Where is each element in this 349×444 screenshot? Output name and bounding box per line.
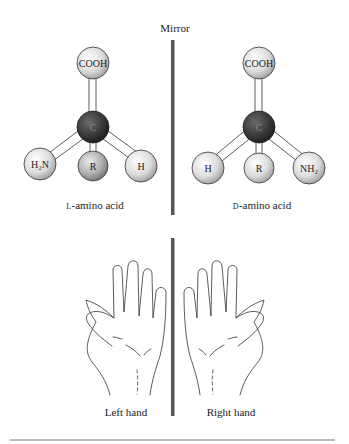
cooh-label: COOH bbox=[79, 58, 107, 69]
l-amino-acid-caption: L-amino acid bbox=[45, 199, 145, 211]
d-amino-acid-caption: D-amino acid bbox=[212, 199, 312, 211]
l-suffix: -amino acid bbox=[71, 199, 123, 211]
right-group-label: NH₂ bbox=[300, 163, 318, 174]
carbon-label: C bbox=[90, 122, 97, 133]
left-group-label: H₂N bbox=[31, 159, 49, 170]
l-amino-acid-model: COOH C H₂N R H bbox=[24, 47, 157, 182]
d-suffix: -amino acid bbox=[239, 199, 291, 211]
mirror-bar-top bbox=[171, 40, 175, 215]
r-label: R bbox=[256, 163, 263, 174]
left-hand-caption: Left hand bbox=[96, 406, 156, 418]
right-hand-caption: Right hand bbox=[196, 406, 266, 418]
left-hand-drawing bbox=[86, 261, 166, 395]
chirality-figure: COOH C H₂N R H COOH C H R NH₂ bbox=[0, 0, 349, 444]
mirror-label: Mirror bbox=[145, 22, 205, 34]
d-amino-acid-model: COOH C H R NH₂ bbox=[192, 47, 325, 184]
right-group-label: H bbox=[137, 161, 144, 172]
cooh-label: COOH bbox=[245, 58, 273, 69]
carbon-label: C bbox=[256, 122, 263, 133]
r-label: R bbox=[90, 161, 97, 172]
mirror-bar-bottom bbox=[171, 238, 175, 416]
right-hand-drawing bbox=[184, 261, 264, 395]
left-group-label: H bbox=[204, 163, 211, 174]
